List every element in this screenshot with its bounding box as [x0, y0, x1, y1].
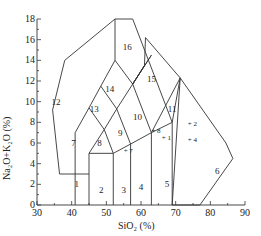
sample-point-2: + 2 [188, 120, 198, 128]
field-label-10: 10 [133, 112, 143, 122]
y-tick-label: 10 [25, 96, 35, 107]
y-tick-label: 12 [25, 75, 35, 86]
y-axis-title: Na₂O+K₂O (%) [1, 117, 12, 180]
field-label-13: 13 [90, 104, 100, 114]
field-label-6: 6 [215, 166, 220, 176]
y-tick-label: 18 [25, 13, 35, 24]
tas-diagram: 30405060708090 024681012141618 123456789… [0, 0, 261, 236]
field-label-11: 11 [168, 104, 177, 114]
field-boundaries [53, 19, 233, 205]
x-tick-label: 90 [240, 207, 250, 218]
y-tick-label: 2 [30, 178, 35, 189]
field-boundary [133, 38, 146, 85]
sample-point-4: + 4 [188, 136, 198, 144]
y-tick-label: 6 [30, 137, 35, 148]
x-tick-labels: 30405060708090 [32, 207, 250, 218]
field-label-3: 3 [121, 185, 126, 195]
y-tick-label: 4 [30, 158, 35, 169]
field-label-7: 7 [71, 138, 76, 148]
field-label-4: 4 [139, 182, 144, 192]
y-tick-label: 14 [25, 54, 35, 65]
field-boundary [172, 78, 180, 205]
field-label-8: 8 [97, 138, 102, 148]
y-tick-labels: 024681012141618 [25, 13, 35, 210]
field-boundary [89, 153, 113, 205]
y-tick-label: 16 [25, 34, 35, 45]
x-tick-label: 50 [101, 207, 111, 218]
x-axis-title: SiO₂ (%) [118, 220, 155, 231]
x-tick-label: 80 [205, 207, 215, 218]
field-label-5: 5 [165, 179, 170, 189]
x-tick-label: 70 [171, 207, 181, 218]
field-label-9: 9 [118, 128, 123, 138]
sample-point-8: + 8 [151, 127, 161, 135]
y-tick-label: 0 [30, 199, 35, 210]
y-ticks [37, 19, 41, 205]
field-label-2: 2 [99, 185, 104, 195]
x-tick-label: 40 [67, 207, 77, 218]
x-tick-label: 60 [136, 207, 146, 218]
field-labels: 12345678910111213141516 [52, 42, 220, 195]
x-ticks [37, 201, 245, 205]
field-boundary [53, 19, 115, 174]
field-label-12: 12 [52, 97, 61, 107]
field-label-15: 15 [147, 74, 157, 84]
sample-points: + 1+ 2+ 4+ 7+ 8 [124, 120, 198, 155]
field-label-16: 16 [123, 42, 133, 52]
field-label-14: 14 [105, 84, 115, 94]
y-tick-label: 8 [30, 116, 35, 127]
field-label-1: 1 [75, 179, 80, 189]
sample-point-7: + 7 [124, 147, 134, 155]
sample-point-1: + 1 [162, 134, 172, 142]
